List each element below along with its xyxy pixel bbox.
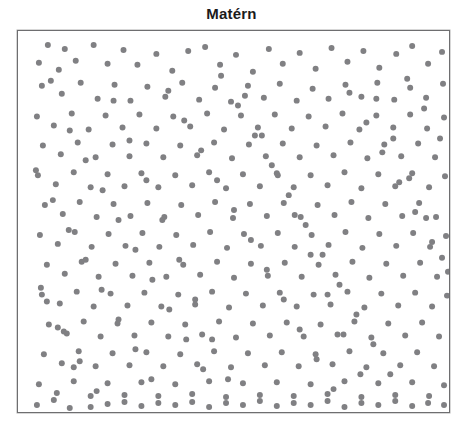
scatter-point — [331, 152, 337, 158]
scatter-point — [392, 392, 398, 398]
scatter-point — [156, 244, 162, 250]
scatter-point — [113, 261, 119, 267]
scatter-point — [299, 274, 305, 280]
scatter-point — [189, 391, 195, 397]
scatter-point — [342, 82, 348, 88]
scatter-point — [291, 184, 297, 190]
scatter-point — [341, 378, 347, 384]
scatter-point — [325, 398, 331, 404]
scatter-point — [392, 398, 398, 404]
scatter-point — [51, 397, 57, 403]
scatter-point — [291, 400, 297, 406]
scatter-point — [228, 99, 234, 105]
scatter-point — [218, 73, 224, 79]
scatter-point — [106, 231, 112, 237]
scatter-point — [365, 215, 371, 221]
scatter-point — [370, 341, 376, 347]
scatter-point — [412, 290, 418, 296]
scatter-point — [423, 95, 429, 101]
scatter-point — [441, 382, 447, 388]
scatter-point — [59, 360, 65, 366]
scatter-point — [308, 381, 314, 387]
scatter-point — [242, 93, 248, 99]
scatter-point — [172, 172, 178, 178]
scatter-point — [281, 297, 287, 303]
scatter-point — [409, 170, 415, 176]
scatter-point — [45, 42, 51, 48]
scatter-point — [77, 199, 83, 205]
scatter-point — [116, 317, 122, 323]
scatter-point — [318, 321, 324, 327]
scatter-point — [211, 348, 217, 354]
scatter-point — [111, 98, 117, 104]
scatter-point — [123, 243, 129, 249]
scatter-point — [77, 358, 83, 364]
scatter-point — [434, 274, 440, 280]
scatter-point — [116, 217, 122, 223]
scatter-point — [39, 292, 45, 298]
scatter-point — [353, 312, 359, 318]
scatter-point — [182, 321, 188, 327]
scatter-point — [88, 404, 94, 410]
scatter-point — [143, 349, 149, 355]
scatter-point — [60, 211, 66, 217]
scatter-point — [316, 262, 322, 268]
scatter-point — [333, 272, 339, 278]
scatter-point — [393, 51, 399, 57]
scatter-point — [42, 202, 48, 208]
scatter-point — [363, 120, 369, 126]
scatter-point — [225, 376, 231, 382]
scatter-point — [105, 401, 111, 407]
scatter-point — [286, 192, 292, 198]
scatter-point — [149, 277, 155, 283]
scatter-point — [61, 328, 67, 334]
scatter-point — [162, 94, 168, 100]
scatter-point — [91, 304, 97, 310]
scatter-point — [40, 142, 46, 148]
scatter-point — [325, 182, 331, 188]
scatter-point — [264, 213, 270, 219]
scatter-point — [163, 274, 169, 280]
scatter-point — [230, 215, 236, 221]
scatter-point — [231, 275, 237, 281]
scatter-point — [67, 127, 73, 133]
scatter-point — [436, 333, 442, 339]
scatter-point — [425, 400, 431, 406]
scatter-point — [425, 61, 431, 67]
scatter-point — [331, 386, 337, 392]
scatter-point — [442, 173, 448, 179]
scatter-point — [257, 183, 263, 189]
scatter-point — [274, 379, 280, 385]
scatter-point — [44, 262, 50, 268]
scatter-point — [281, 200, 287, 206]
scatter-point — [55, 241, 61, 247]
scatter-point — [103, 113, 109, 119]
scatter-point — [57, 301, 63, 307]
scatter-point — [429, 239, 435, 245]
scatter-point — [165, 333, 171, 339]
scatter-point — [86, 126, 92, 132]
scatter-point — [258, 243, 264, 249]
scatter-point — [308, 252, 314, 258]
scatter-point — [122, 399, 128, 405]
scatter-point — [248, 261, 254, 267]
scatter-point — [326, 242, 332, 248]
scatter-point — [406, 175, 412, 181]
scatter-point — [66, 227, 72, 233]
scatter-point — [192, 297, 198, 303]
scatter-point — [351, 318, 357, 324]
scatter-point — [433, 214, 439, 220]
scatter-point — [238, 113, 244, 119]
scatter-point — [255, 125, 261, 131]
scatter-point — [373, 113, 379, 119]
scatter-point — [379, 149, 385, 155]
scatter-point — [148, 376, 154, 382]
scatter-point — [88, 393, 94, 399]
scatter-point — [375, 171, 381, 177]
scatter-point — [112, 82, 118, 88]
scatter-point — [127, 213, 133, 219]
scatter-point — [50, 197, 56, 203]
scatter-point — [243, 291, 249, 297]
scatter-point — [292, 212, 298, 218]
scatter-point — [89, 244, 95, 250]
